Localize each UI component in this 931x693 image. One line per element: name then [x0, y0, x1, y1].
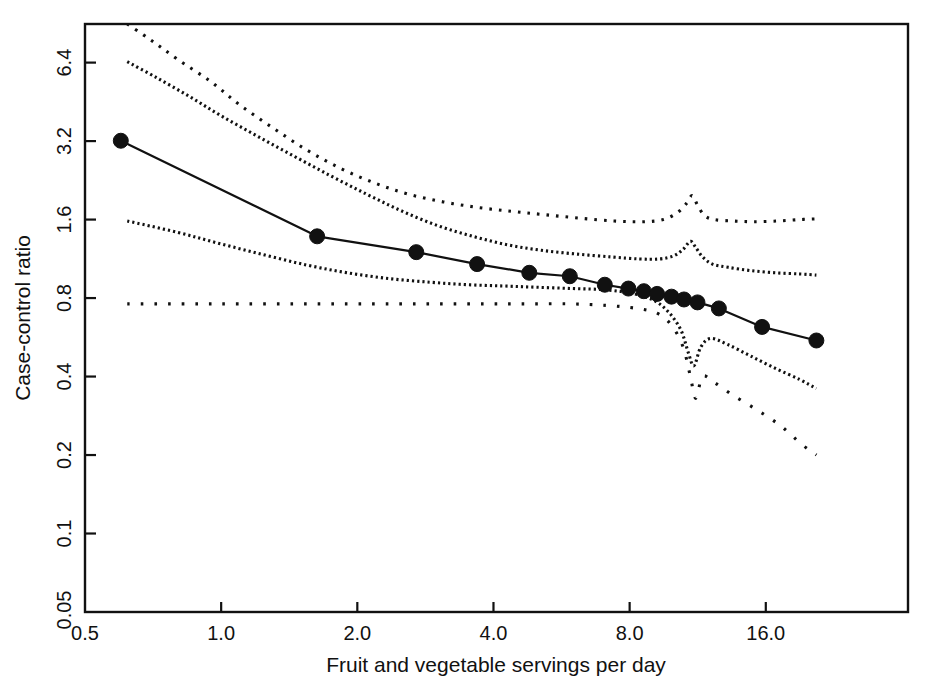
y-axis-label: Case-control ratio [11, 235, 34, 401]
y-tick-label: 0.2 [53, 441, 75, 469]
data-point-marker [562, 269, 577, 284]
data-point-marker [755, 319, 770, 334]
y-tick-label: 6.4 [53, 49, 75, 77]
y-tick-label: 0.4 [53, 363, 75, 391]
case-control-ratio-chart: 0.51.02.04.08.016.0 0.050.10.20.40.81.63… [0, 0, 931, 693]
x-axis-label: Fruit and vegetable servings per day [326, 653, 666, 676]
data-point-marker [636, 284, 651, 299]
data-point-marker [711, 301, 726, 316]
data-point-marker [650, 286, 665, 301]
y-tick-label: 1.6 [53, 206, 75, 234]
data-point-marker [310, 229, 325, 244]
y-tick-label: 0.05 [53, 591, 75, 630]
x-tick-label: 16.0 [746, 622, 785, 644]
data-point-marker [809, 333, 824, 348]
y-tick-label: 3.2 [53, 127, 75, 155]
x-tick-label: 2.0 [343, 622, 371, 644]
y-tick-label: 0.1 [53, 520, 75, 548]
data-point-marker [690, 295, 705, 310]
data-point-marker [409, 245, 424, 260]
data-point-marker [676, 292, 691, 307]
chart-background [0, 0, 931, 693]
data-point-marker [470, 257, 485, 272]
x-tick-label: 8.0 [616, 622, 644, 644]
data-point-marker [522, 265, 537, 280]
y-tick-label: 0.8 [53, 284, 75, 312]
chart-figure: 0.51.02.04.08.016.0 0.050.10.20.40.81.63… [0, 0, 931, 693]
data-point-marker [113, 133, 128, 148]
x-tick-label: 4.0 [480, 622, 508, 644]
data-point-marker [621, 281, 636, 296]
x-tick-label: 1.0 [207, 622, 235, 644]
data-point-marker [597, 277, 612, 292]
